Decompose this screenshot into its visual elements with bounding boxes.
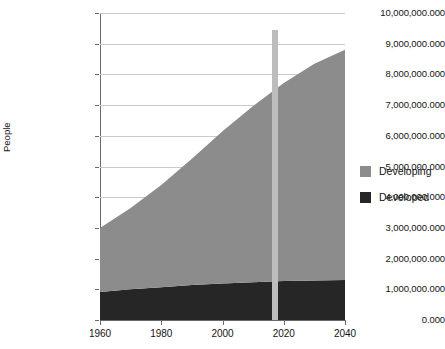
y-tick-label: 3,000,000.000 (353, 222, 445, 233)
plot-area (100, 13, 345, 320)
x-axis-line (100, 320, 346, 321)
y-axis-title: People (1, 122, 12, 152)
area-chart: People 0.0001,000,000.0002,000,000.0003,… (0, 0, 445, 349)
y-tick-mark (95, 228, 99, 229)
y-tick-mark (95, 167, 99, 168)
area-series-developing (100, 50, 345, 292)
y-tick-mark (95, 74, 99, 75)
x-tick-label: 2000 (193, 328, 253, 339)
legend-label-developed: Developed (379, 191, 429, 203)
x-tick-label: 2040 (315, 328, 375, 339)
y-tick-mark (95, 105, 99, 106)
y-tick-label: 1,000,000.000 (353, 283, 445, 294)
y-tick-mark (95, 44, 99, 45)
legend-item-developing[interactable]: Developing (360, 158, 432, 184)
chart-legend: Developing Developed (360, 158, 432, 210)
legend-label-developing: Developing (379, 165, 432, 177)
y-tick-label: 9,000,000.000 (353, 38, 445, 49)
legend-swatch-developed-icon (360, 192, 371, 203)
y-tick-mark (95, 320, 99, 321)
x-tick-label: 1980 (131, 328, 191, 339)
y-tick-mark (95, 13, 99, 14)
y-tick-mark (95, 289, 99, 290)
y-tick-label: 7,000,000.000 (353, 99, 445, 110)
current-year-marker[interactable] (272, 30, 278, 320)
x-tick-mark (100, 321, 101, 325)
y-tick-mark (95, 136, 99, 137)
x-tick-label: 1960 (70, 328, 130, 339)
series-layer (100, 13, 345, 320)
x-tick-mark (345, 321, 346, 325)
x-tick-label: 2020 (254, 328, 314, 339)
x-tick-mark (223, 321, 224, 325)
y-tick-label: 8,000,000.000 (353, 68, 445, 79)
y-tick-mark (95, 259, 99, 260)
y-tick-label: 6,000,000.000 (353, 130, 445, 141)
y-tick-label: 2,000,000.000 (353, 253, 445, 264)
legend-item-developed[interactable]: Developed (360, 184, 432, 210)
y-tick-label: 10,000,000.000 (353, 7, 445, 18)
x-tick-mark (284, 321, 285, 325)
x-tick-mark (161, 321, 162, 325)
y-tick-mark (95, 197, 99, 198)
legend-swatch-developing-icon (360, 166, 371, 177)
y-tick-label: 0.000 (353, 314, 445, 325)
